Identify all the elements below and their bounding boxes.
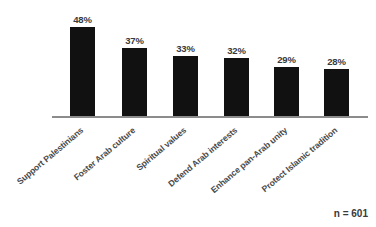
bar bbox=[173, 56, 198, 116]
plot-area: 48% Support Palestinians 37% Foster Arab… bbox=[0, 0, 376, 227]
bar-value-label: 29% bbox=[272, 54, 301, 65]
bar-value-label: 37% bbox=[120, 35, 149, 46]
x-axis-baseline bbox=[52, 116, 368, 118]
bar bbox=[70, 27, 95, 116]
sample-size-note: n = 601 bbox=[334, 208, 368, 219]
bar-value-label: 48% bbox=[68, 14, 97, 25]
bar-chart: 48% Support Palestinians 37% Foster Arab… bbox=[0, 0, 376, 227]
bar bbox=[122, 48, 147, 116]
bar-value-label: 32% bbox=[222, 45, 251, 56]
bar bbox=[224, 58, 249, 116]
bar-value-label: 28% bbox=[322, 56, 351, 67]
bar bbox=[324, 69, 349, 116]
bar bbox=[274, 67, 299, 116]
bar-value-label: 33% bbox=[171, 43, 200, 54]
